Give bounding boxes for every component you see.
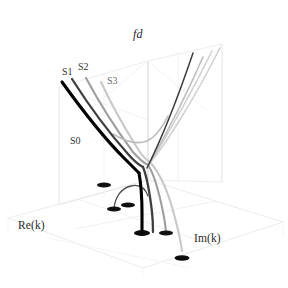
curve-label-S3: S3: [107, 75, 118, 86]
root-marker: [159, 230, 173, 235]
curve-S3-complex: [150, 48, 220, 163]
curve-S2-complex: [113, 57, 203, 166]
figure-canvas: fd Re(k) Im(k) S1 S2 S3 S0: [0, 0, 288, 288]
z-axis-label: fd: [133, 27, 143, 42]
root-marker: [121, 202, 135, 207]
perspective-guide: [59, 87, 148, 120]
root-marker: [107, 206, 121, 211]
curve-label-S0: S0: [70, 135, 81, 146]
y-axis-label: Im(k): [194, 232, 221, 244]
root-marker: [134, 230, 150, 236]
curve-label-S1: S1: [62, 66, 73, 77]
dispersion-plot-svg: [0, 0, 288, 288]
curve-S1-descending: [72, 79, 143, 167]
perspective-guide: [88, 61, 148, 111]
root-marker: [175, 255, 190, 261]
curve-S0-descending: [62, 82, 139, 173]
curve-S0-base-branch: [139, 173, 142, 234]
curve-S3-base-branch: [150, 162, 182, 251]
curve-label-S2: S2: [78, 61, 89, 72]
drop-line: [48, 238, 190, 268]
x-axis-label: Re(k): [18, 219, 45, 231]
root-marker: [97, 182, 111, 187]
axis-frame: [8, 44, 283, 278]
base-plane: [8, 180, 283, 268]
